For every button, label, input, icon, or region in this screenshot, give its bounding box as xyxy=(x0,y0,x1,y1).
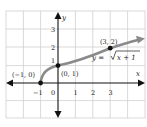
graph-canvas: x y (−1, 0) (0, 1) (3, 2) y = x + 1 −1 0… xyxy=(0,0,147,127)
x-axis-left-arrow-icon xyxy=(6,80,13,87)
point-3-2 xyxy=(108,46,113,51)
x-tick-1: 1 xyxy=(74,89,78,97)
x-axis-right-arrow-icon xyxy=(138,80,145,87)
x-tick-0: 0 xyxy=(51,89,55,97)
x-tick-3: 3 xyxy=(109,89,113,97)
equation-rhs: x + 1 xyxy=(117,54,136,62)
y-tick-3: 3 xyxy=(51,26,55,34)
x-tick-neg1: −1 xyxy=(33,89,43,97)
x-axis-label: x xyxy=(136,70,140,78)
y-axis-up-arrow-icon xyxy=(55,12,62,19)
x-tick-2: 2 xyxy=(91,89,95,97)
point-label-0-1: (0, 1) xyxy=(61,70,79,78)
y-tick-2: 2 xyxy=(51,44,55,52)
y-axis-down-arrow-icon xyxy=(55,111,62,118)
equation-lhs: y = xyxy=(91,54,104,62)
grid xyxy=(6,11,145,118)
curve-arrow-icon xyxy=(136,36,145,44)
point-label-3-2: (3, 2) xyxy=(100,38,118,46)
point-neg1-0 xyxy=(38,81,43,86)
point-0-1 xyxy=(56,63,61,68)
y-axis-label: y xyxy=(61,14,67,22)
y-tick-1: 1 xyxy=(51,57,55,65)
point-label-neg1-0: (−1, 0) xyxy=(12,71,35,79)
